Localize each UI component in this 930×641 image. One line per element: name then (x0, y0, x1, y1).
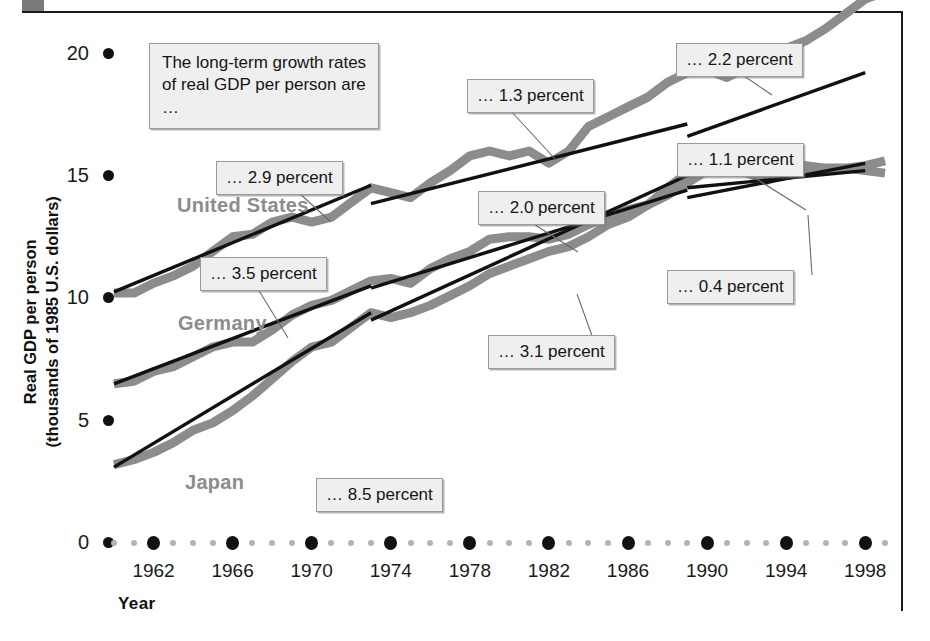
callout-us-mid: … 1.3 percent (467, 79, 594, 113)
callout-japan-mid: … 3.1 percent (488, 335, 615, 369)
trend-line-united-states (687, 73, 865, 137)
callout-germany-mid: … 2.0 percent (478, 191, 605, 225)
callout-intro: The long-term growth rates of real GDP p… (149, 43, 379, 129)
leader-line-japan-late (808, 215, 812, 275)
callout-japan-late: … 0.4 percent (667, 270, 794, 304)
series-label-japan: Japan (185, 471, 244, 494)
callout-us-late: … 2.2 percent (676, 43, 803, 77)
series-label-united-states: United States (177, 194, 309, 217)
figure-container: Real GDP per person (thousands of 1985 U… (0, 0, 930, 641)
chart-plot-area (0, 0, 930, 641)
callout-germany-early: … 3.5 percent (200, 257, 327, 291)
callout-japan-early: … 8.5 percent (316, 478, 443, 512)
series-label-germany: Germany (178, 312, 267, 335)
callout-germany-late: … 1.1 percent (677, 143, 804, 177)
callout-us-early: … 2.9 percent (216, 161, 343, 195)
